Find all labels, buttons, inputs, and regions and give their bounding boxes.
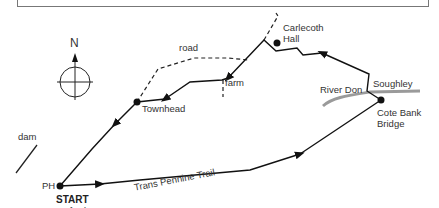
route-map xyxy=(0,0,439,208)
road-lines xyxy=(137,13,278,102)
carlecoth-hall-label-line2: Hall xyxy=(283,33,299,44)
durnford-label-line1: Durnford xyxy=(49,205,86,208)
river-don-label: River Don xyxy=(320,84,362,95)
cote-bank-label-line2: Bridge xyxy=(377,118,404,129)
carlecoth-hall-label-line1: Carlecoth xyxy=(283,22,324,33)
farm-label: farm xyxy=(225,77,244,88)
compass-icon xyxy=(57,53,93,100)
cote-bank-label-line1: Cote Bank xyxy=(377,107,421,118)
dam-line xyxy=(16,145,37,173)
townhead-label: Townhead xyxy=(142,103,185,114)
townhead-marker xyxy=(134,99,141,106)
start-marker xyxy=(57,183,64,190)
ph-label: PH xyxy=(42,180,55,191)
start-label: START xyxy=(56,194,89,205)
cote-bank-bridge-marker xyxy=(378,97,385,104)
north-label: N xyxy=(70,38,79,49)
dam-label: dam xyxy=(18,131,36,142)
road-label: road xyxy=(179,42,198,53)
carlecoth-hall-marker xyxy=(274,40,281,47)
soughley-label: Soughley xyxy=(373,78,413,89)
walking-route xyxy=(60,40,381,186)
